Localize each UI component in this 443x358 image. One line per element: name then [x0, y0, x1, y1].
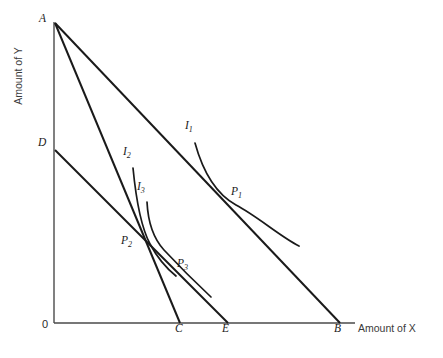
origin-label: 0	[42, 318, 48, 330]
i1-subscript: 1	[189, 125, 193, 134]
curve-label-i2: I2	[123, 146, 131, 160]
budget-line-ac	[55, 23, 180, 323]
indifference-curve-i1	[195, 143, 299, 246]
i3-subscript: 3	[141, 186, 145, 195]
budget-line-de	[55, 150, 228, 323]
curve-label-i1: I1	[185, 120, 193, 134]
point-label-p3: P3	[177, 258, 188, 272]
p1-subscript: 1	[238, 191, 242, 200]
p3-base: P	[177, 257, 184, 269]
point-label-e: E	[222, 323, 229, 335]
i2-subscript: 2	[127, 151, 131, 160]
p1-base: P	[231, 185, 238, 197]
point-label-c: C	[175, 323, 183, 335]
x-axis-title: Amount of X	[358, 322, 416, 334]
y-axis-title: Amount of Y	[12, 26, 24, 126]
budget-line-ab	[55, 23, 340, 323]
indifference-curve-figure: Amount of Y Amount of X 0 A D C E B P1 P…	[0, 0, 443, 358]
point-label-b: B	[334, 323, 341, 335]
point-label-d: D	[38, 137, 46, 149]
point-label-p2: P2	[121, 235, 132, 249]
p3-subscript: 3	[184, 263, 188, 272]
curve-label-i3: I3	[137, 181, 145, 195]
plot-canvas	[0, 0, 443, 358]
indifference-curve-i3	[147, 202, 211, 297]
p2-base: P	[121, 234, 128, 246]
point-label-p1: P1	[231, 186, 242, 200]
point-label-a: A	[39, 13, 46, 25]
p2-subscript: 2	[128, 240, 132, 249]
